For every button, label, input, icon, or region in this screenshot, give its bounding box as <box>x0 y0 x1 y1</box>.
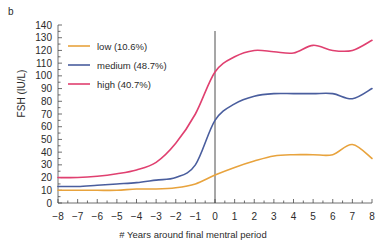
x-tick-label: 5 <box>310 211 316 222</box>
y-tick-label: 30 <box>41 159 53 170</box>
x-tick-label: −5 <box>111 211 123 222</box>
x-tick-label: 0 <box>212 211 218 222</box>
y-tick-label: 130 <box>35 32 52 43</box>
x-tick-label: −6 <box>92 211 104 222</box>
x-tick-label: −2 <box>170 211 182 222</box>
x-tick-label: −7 <box>72 211 84 222</box>
y-tick-label: 10 <box>41 185 53 196</box>
x-tick-label: −4 <box>131 211 143 222</box>
y-tick-label: 110 <box>36 58 52 69</box>
x-tick-label: 7 <box>350 211 356 222</box>
y-tick-label: 140 <box>35 20 52 31</box>
y-tick-label: 120 <box>35 45 52 56</box>
y-tick-label-group: 0102030405060708090100110120130140 <box>35 20 52 209</box>
y-tick-label: 0 <box>46 198 52 209</box>
x-tick-label-group: −8−7−6−5−4−3−2−1012345678 <box>52 211 375 222</box>
x-tick-label: 2 <box>251 211 257 222</box>
fsh-line-chart: 0102030405060708090100110120130140 −8−7−… <box>0 0 386 249</box>
y-tick-label: 100 <box>35 70 52 81</box>
y-tick-label: 70 <box>41 109 53 120</box>
y-tick-label: 80 <box>41 96 53 107</box>
x-tick-label: −8 <box>52 211 64 222</box>
chart-legend: low (10.6%)medium (48.7%)high (40.7%) <box>68 41 167 90</box>
legend-label-high: high (40.7%) <box>97 79 151 90</box>
x-tick-label: 1 <box>232 211 238 222</box>
y-tick-label: 50 <box>41 134 53 145</box>
y-tick-label: 60 <box>41 121 53 132</box>
x-tick-label: −3 <box>150 211 162 222</box>
y-tick-label: 40 <box>41 147 53 158</box>
y-tick-label: 20 <box>41 172 53 183</box>
y-tick-mark-group <box>58 25 62 203</box>
legend-label-low: low (10.6%) <box>97 41 147 52</box>
x-tick-label: 6 <box>330 211 336 222</box>
x-tick-label: 3 <box>271 211 277 222</box>
y-tick-label: 90 <box>41 83 53 94</box>
x-tick-label: 8 <box>369 211 375 222</box>
x-tick-label: −1 <box>190 211 202 222</box>
x-tick-label: 4 <box>291 211 297 222</box>
legend-label-medium: medium (48.7%) <box>97 60 167 71</box>
